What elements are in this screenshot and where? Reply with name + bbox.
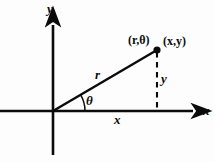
radius-label: r: [95, 68, 100, 81]
y-axis-label: y: [47, 2, 53, 15]
angle-arc: [81, 95, 86, 111]
vertical-leg-label: y: [161, 72, 167, 85]
polar-coordinate-diagram: y x r θ x y (r,θ) (x,y): [0, 0, 214, 162]
x-axis-label: x: [203, 104, 210, 117]
angle-label: θ: [86, 94, 93, 107]
cartesian-coordinates-label: (x,y): [163, 35, 186, 47]
plotted-point-marker: [153, 46, 160, 53]
coordinate-axes-svg: [0, 0, 214, 162]
horizontal-leg-label: x: [114, 113, 121, 126]
radius-segment: [53, 50, 157, 111]
polar-coordinates-label: (r,θ): [128, 34, 149, 46]
